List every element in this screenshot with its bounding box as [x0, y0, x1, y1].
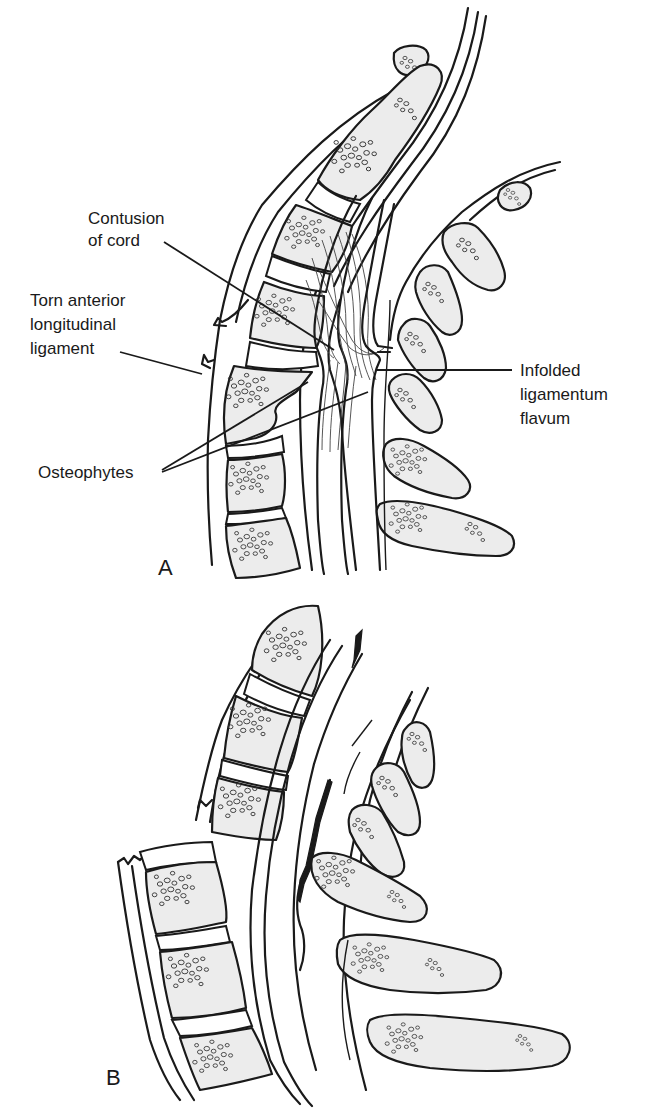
label-torn-ligament-line3: ligament — [30, 339, 95, 358]
label-contusion-line2: of cord — [88, 231, 140, 250]
label-torn-ligament-line2: longitudinal — [30, 315, 116, 334]
panel-label-b: B — [106, 1065, 121, 1090]
leader-torn-ligament — [120, 352, 202, 374]
label-torn-ligament-line1: Torn anterior — [30, 291, 126, 310]
label-infolded-line3: flavum — [520, 409, 570, 428]
label-osteophytes: Osteophytes — [38, 463, 133, 482]
label-infolded-line2: ligamentum — [520, 385, 608, 404]
label-infolded-line1: Infolded — [520, 361, 581, 380]
panel-b-illustration — [118, 606, 570, 1106]
spine-figure: Contusion of cord Torn anterior longitud… — [0, 0, 649, 1108]
panel-a-illustration — [202, 8, 560, 578]
panel-label-a: A — [158, 555, 173, 580]
label-contusion-line1: Contusion — [88, 209, 165, 228]
